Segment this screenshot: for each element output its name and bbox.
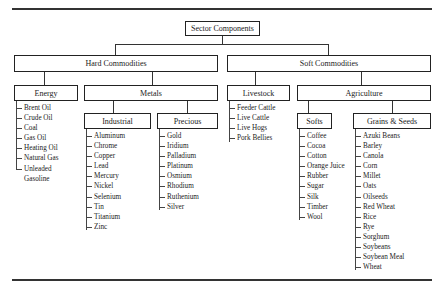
grains-list: Azuki Beans Barley Canola Corn Millet Oa…	[355, 131, 404, 272]
list-item: Gold	[159, 131, 199, 141]
list-item: Rye	[355, 222, 404, 232]
list-item: Wool	[299, 212, 345, 222]
node-agriculture: Agriculture	[297, 85, 431, 101]
node-soft-commodities: Soft Commodities	[227, 55, 431, 72]
list-item: Feeder Cattle	[229, 103, 276, 113]
list-item: Coal	[16, 123, 59, 133]
connector	[152, 72, 153, 85]
connector	[328, 44, 329, 55]
connector	[115, 44, 329, 45]
list-item: Live Cattle	[229, 113, 276, 123]
list-item: Soybeans	[355, 242, 404, 252]
node-sector-components: Sector Components	[185, 21, 260, 36]
list-item: Tin	[86, 202, 125, 212]
connector	[187, 101, 188, 113]
list-item: Osmium	[159, 171, 199, 181]
connector	[115, 44, 116, 55]
list-item: Rhodium	[159, 181, 199, 191]
list-item: Red Wheat	[355, 202, 404, 212]
list-item: Cocoa	[299, 141, 345, 151]
industrial-list: Aluminum Chrome Copper Lead Mercury Nick…	[86, 131, 125, 232]
node-precious: Precious	[157, 113, 218, 129]
list-item: Sorghum	[355, 232, 404, 242]
list-item: Barley	[355, 141, 404, 151]
node-energy: Energy	[14, 85, 78, 101]
list-item: Orange Juice	[299, 161, 345, 171]
top-rule	[12, 8, 432, 10]
list-item: Gas Oil	[16, 133, 59, 143]
list-item: Mercury	[86, 171, 125, 181]
list-item: Millet	[355, 171, 404, 181]
connector	[113, 101, 114, 113]
list-item: Copper	[86, 151, 125, 161]
livestock-list: Feeder Cattle Live Cattle Live Hogs Pork…	[229, 103, 276, 143]
list-item: Gasoline	[16, 174, 59, 184]
list-item: Wheat	[355, 262, 404, 272]
precious-list: Gold Iridium Palladium Platinum Osmium R…	[159, 131, 199, 212]
list-item: Timber	[299, 202, 345, 212]
list-item: Lead	[86, 161, 125, 171]
list-item: Rice	[355, 212, 404, 222]
list-item: Coffee	[299, 131, 345, 141]
list-item: Oats	[355, 181, 404, 191]
list-item: Silver	[159, 202, 199, 212]
node-grains-seeds: Grains & Seeds	[353, 113, 431, 129]
list-item: Unleaded	[16, 164, 59, 174]
list-item: Titanium	[86, 212, 125, 222]
list-item: Zinc	[86, 222, 125, 232]
list-item: Soybean Meal	[355, 252, 404, 262]
list-item: Nickel	[86, 181, 125, 191]
list-item: Oilseeds	[355, 192, 404, 202]
list-item: Iridium	[159, 141, 199, 151]
list-item: Cotton	[299, 151, 345, 161]
node-metals: Metals	[84, 85, 218, 101]
list-item: Ruthenium	[159, 192, 199, 202]
list-item: Crude Oil	[16, 113, 59, 123]
list-item: Rubber	[299, 171, 345, 181]
energy-list: Brent Oil Crude Oil Coal Gas Oil Heating…	[16, 103, 59, 184]
list-item: Chrome	[86, 141, 125, 151]
list-item: Aluminum	[86, 131, 125, 141]
connector	[392, 101, 393, 113]
list-item: Platinum	[159, 161, 199, 171]
node-softs: Softs	[297, 113, 332, 129]
list-item: Natural Gas	[16, 153, 59, 163]
list-item: Live Hogs	[229, 123, 276, 133]
connector	[361, 72, 362, 85]
list-item: Azuki Beans	[355, 131, 404, 141]
softs-list: Coffee Cocoa Cotton Orange Juice Rubber …	[299, 131, 345, 222]
node-hard-commodities: Hard Commodities	[14, 55, 218, 72]
list-item: Silk	[299, 192, 345, 202]
list-item: Sugar	[299, 181, 345, 191]
node-industrial: Industrial	[84, 113, 151, 129]
list-item: Corn	[355, 161, 404, 171]
list-item: Brent Oil	[16, 103, 59, 113]
connector	[308, 101, 309, 113]
bottom-rule	[12, 279, 432, 281]
connector	[44, 72, 45, 85]
list-item: Selenium	[86, 192, 125, 202]
list-item: Heating Oil	[16, 143, 59, 153]
node-livestock: Livestock	[227, 85, 290, 101]
list-item: Palladium	[159, 151, 199, 161]
list-item: Canola	[355, 151, 404, 161]
connector	[255, 72, 256, 85]
list-item: Pork Bellies	[229, 133, 276, 143]
